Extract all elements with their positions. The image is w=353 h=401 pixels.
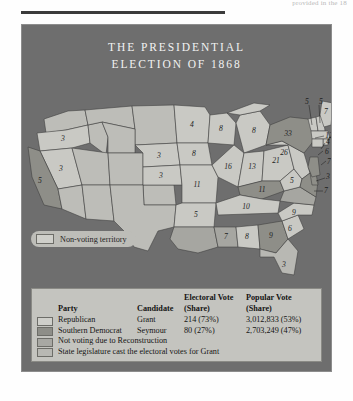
state-value-ne: 3 — [156, 151, 161, 160]
state-value-mn: 4 — [190, 120, 194, 129]
territory-swatch-icon — [36, 234, 54, 244]
legend-header-swatch — [37, 293, 58, 315]
state-value-ri: 4 — [326, 137, 330, 146]
state-value-ct: 6 — [325, 147, 329, 156]
state-value-in: 13 — [248, 162, 256, 171]
page-bleed-text: provided in the 18 — [292, 0, 347, 7]
state-value-or: 3 — [60, 134, 65, 143]
legend-row-reconstruction: Not voting due to Reconstruction — [37, 336, 315, 347]
top-rule-divider — [21, 11, 225, 14]
us-map: 3 3 5 3 3 4 8 11 5 8 8 16 13 21 11 10 7 … — [22, 81, 332, 309]
state-value-ga: 9 — [269, 231, 273, 240]
election-map-figure: THE PRESIDENTIAL ELECTION OF 1868 — [21, 24, 332, 372]
state-value-ar: 5 — [194, 210, 198, 219]
republican-swatch-icon — [37, 317, 53, 326]
legend-header-candidate: Candidate — [137, 293, 184, 315]
state-value-mi: 8 — [252, 126, 256, 135]
southern-democrat-swatch-icon — [37, 327, 53, 336]
territory-key-label: Non-voting territory — [60, 235, 127, 244]
figure-title-line1: THE PRESIDENTIAL — [108, 41, 245, 53]
state-value-nc: 9 — [292, 208, 296, 217]
state-value-nv: 3 — [58, 164, 63, 173]
legislature-swatch-icon — [37, 348, 53, 357]
state-value-nj: 7 — [327, 157, 332, 166]
state-value-mo: 11 — [193, 180, 200, 189]
legend-candidate-grant: Grant — [137, 315, 184, 326]
state-value-vt: 5 — [305, 97, 309, 106]
state-value-de: 3 — [325, 172, 330, 181]
legend-header-popular-line1: Popular Vote — [246, 293, 292, 302]
legend-header-row: Party Candidate Electoral Vote (Share) P… — [37, 293, 315, 315]
state-value-ca: 5 — [38, 176, 42, 185]
state-value-nh: 5 — [319, 97, 323, 106]
state-value-sc: 6 — [288, 224, 292, 233]
legend-party-southern-democrat: Southern Democrat — [58, 326, 137, 337]
legend-header-electoral: Electoral Vote (Share) — [184, 293, 246, 315]
legend-swatch-cell-legislature — [37, 347, 58, 358]
legend-row-republican: Republican Grant 214 (73%) 3,012,833 (53… — [37, 315, 315, 326]
legend-row-southern-democrat: Southern Democrat Seymour 80 (27%) 2,703… — [37, 326, 315, 337]
legend-header-popular: Popular Vote (Share) — [246, 293, 315, 315]
state-value-al: 8 — [245, 232, 249, 241]
legend-header-party: Party — [58, 293, 137, 315]
state-value-il: 16 — [224, 162, 232, 171]
legend-electoral-democrat: 80 (27%) — [184, 326, 246, 337]
legend-header-electoral-line1: Electoral Vote — [184, 293, 233, 302]
state-value-wi: 8 — [219, 124, 223, 133]
figure-page: provided in the 18 THE PRESIDENTIAL ELEC… — [0, 0, 353, 401]
legend-swatch-cell-democrat — [37, 326, 58, 337]
legend-row-legislature: State legislature cast the electoral vot… — [37, 347, 315, 358]
state-value-ia: 8 — [192, 149, 196, 158]
legend-popular-republican: 3,012,833 (53%) — [246, 315, 315, 326]
non-voting-territory-key: Non-voting territory — [31, 231, 136, 247]
state-value-fl: 3 — [281, 260, 286, 269]
state-value-tn: 10 — [242, 202, 250, 211]
legend-note-legislature: State legislature cast the electoral vot… — [58, 347, 315, 358]
legend-table: Party Candidate Electoral Vote (Share) P… — [37, 293, 315, 357]
legend-electoral-republican: 214 (73%) — [184, 315, 246, 326]
state-value-ny: 33 — [283, 129, 292, 138]
map-legend: Party Candidate Electoral Vote (Share) P… — [31, 288, 322, 362]
state-value-wv: 5 — [290, 176, 294, 185]
state-value-ky: 11 — [258, 185, 265, 194]
legend-popular-democrat: 2,703,249 (47%) — [246, 326, 315, 337]
legend-swatch-cell-reconstruction — [37, 336, 58, 347]
legend-party-republican: Republican — [58, 315, 137, 326]
state-value-md: 7 — [324, 186, 329, 195]
legend-header-electoral-line2: (Share) — [184, 304, 242, 315]
reconstruction-swatch-icon — [37, 338, 53, 347]
state-value-pa: 26 — [280, 148, 288, 157]
figure-title: THE PRESIDENTIAL ELECTION OF 1868 — [22, 39, 331, 73]
legend-header-popular-line2: (Share) — [246, 304, 311, 315]
state-value-oh: 21 — [272, 156, 280, 165]
legend-candidate-seymour: Seymour — [137, 326, 184, 337]
state-value-ks: 3 — [158, 171, 163, 180]
legend-note-reconstruction: Not voting due to Reconstruction — [58, 336, 315, 347]
figure-title-line2: ELECTION OF 1868 — [22, 56, 331, 73]
legend-swatch-cell-republican — [37, 315, 58, 326]
